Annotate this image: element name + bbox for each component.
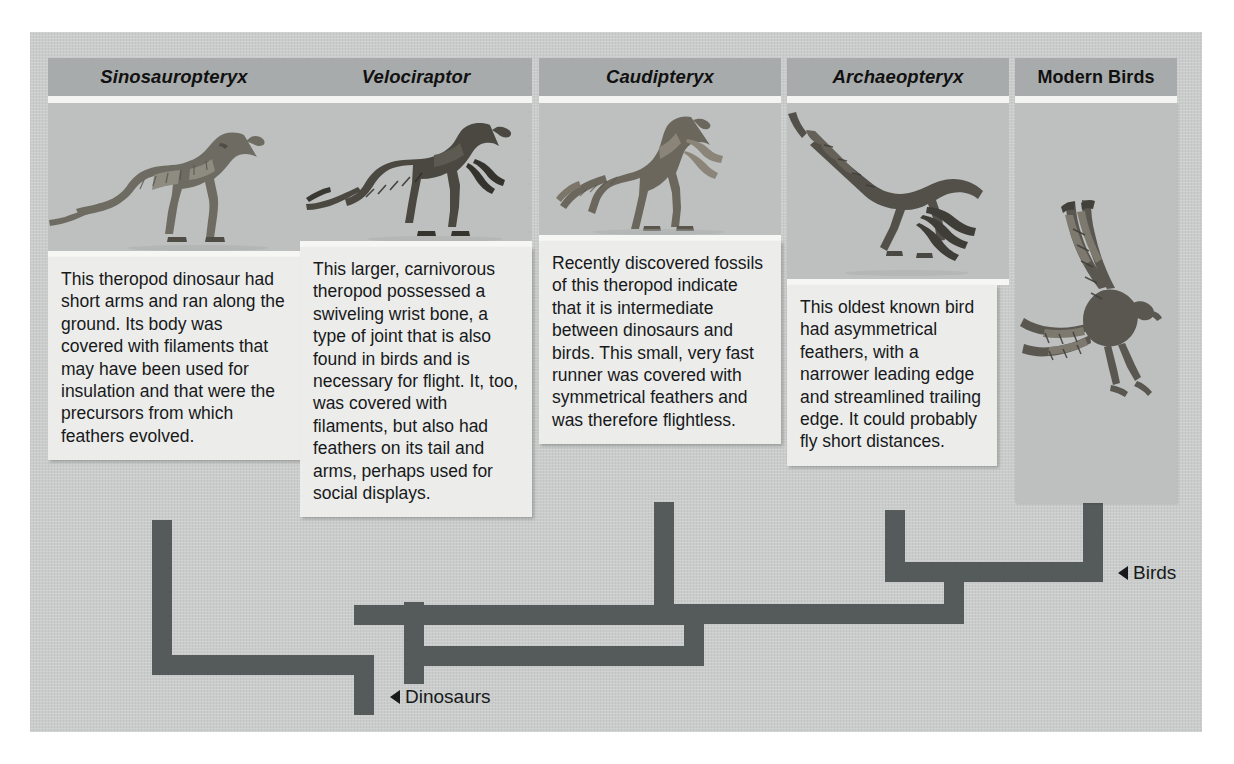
left-triangle-icon	[1118, 566, 1128, 580]
taxon-description-velociraptor: This larger, carnivorous theropod posses…	[300, 247, 532, 517]
header-divider	[1015, 96, 1177, 103]
clade-label-birds-text: Birds	[1133, 562, 1176, 583]
taxon-column-archaeopteryx: Archaeopteryx	[787, 58, 1009, 466]
clade-label-birds: Birds	[1118, 562, 1176, 584]
left-triangle-icon	[390, 690, 400, 704]
taxon-header-velociraptor: Velociraptor	[300, 58, 532, 96]
taxon-description-text: Recently discovered fossils of this ther…	[552, 252, 768, 431]
taxon-description-caudipteryx: Recently discovered fossils of this ther…	[539, 241, 781, 444]
taxon-header-sinosauropteryx: Sinosauropteryx	[48, 58, 300, 96]
taxon-header-modern-birds: Modern Birds	[1015, 58, 1177, 96]
branch-rung-birds	[885, 562, 1103, 582]
header-divider	[48, 96, 300, 103]
branch-node3-connect	[424, 646, 704, 666]
branch-node2-down	[404, 605, 424, 665]
modern-bird-illustration	[1015, 103, 1177, 503]
branch-root-stem	[354, 655, 374, 715]
taxon-description-sinosauropteryx: This theropod dinosaur had short arms an…	[48, 257, 300, 460]
taxon-description-text: This oldest known bird had asymmetrical …	[800, 296, 984, 453]
archaeopteryx-illustration	[787, 103, 1009, 279]
taxon-description-text: This larger, carnivorous theropod posses…	[313, 258, 519, 504]
taxon-header-archaeopteryx: Archaeopteryx	[787, 58, 1009, 96]
header-divider	[539, 96, 781, 103]
clade-label-dinosaurs: Dinosaurs	[390, 686, 491, 708]
header-divider	[787, 96, 1009, 103]
taxon-description-archaeopteryx: This oldest known bird had asymmetrical …	[787, 285, 997, 466]
clade-label-dinosaurs-text: Dinosaurs	[405, 686, 491, 707]
taxon-description-text: This theropod dinosaur had short arms an…	[61, 268, 287, 447]
branch-birds-stem	[944, 562, 964, 624]
taxon-column-modern-birds: Modern Birds	[1015, 58, 1177, 503]
taxon-header-caudipteryx: Caudipteryx	[539, 58, 781, 96]
taxon-column-velociraptor: Velociraptor	[300, 58, 532, 517]
header-divider	[300, 96, 532, 103]
taxon-column-sinosauropteryx: Sinosauropteryx	[48, 58, 300, 460]
caudipteryx-illustration	[539, 103, 781, 235]
branch-rung-root	[152, 655, 374, 675]
cladogram-figure: Dinosaurs Birds Sinosauropteryx	[30, 32, 1202, 732]
sinosauropteryx-illustration	[48, 103, 300, 251]
taxon-column-caudipteryx: Caudipteryx	[539, 58, 781, 444]
velociraptor-illustration	[300, 103, 532, 241]
branch-stem-sinosauropteryx	[152, 520, 172, 675]
